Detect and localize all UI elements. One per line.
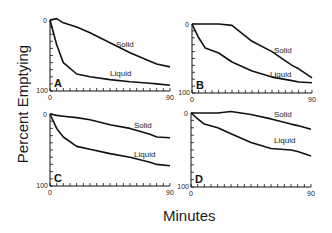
gastric-emptying-figure: 0100090SolidLiquidA0100090SolidLiquidB01… xyxy=(0,0,332,233)
solid-curve xyxy=(50,19,170,67)
y-tick-label-bottom: 100 xyxy=(36,87,48,94)
solid-label: Solid xyxy=(134,121,152,130)
panel-a: 0100090SolidLiquidA xyxy=(36,17,174,101)
solid-curve xyxy=(191,112,311,130)
solid-curve xyxy=(192,24,312,78)
panels-svg: 0100090SolidLiquidA0100090SolidLiquidB01… xyxy=(0,0,332,233)
solid-label: Solid xyxy=(274,46,292,55)
y-tick-label-top: 0 xyxy=(185,21,189,28)
y-tick-label-bottom: 100 xyxy=(177,183,189,190)
y-tick-label-bottom: 100 xyxy=(36,182,48,189)
x-tick-label-start: 0 xyxy=(48,189,52,196)
panel-d: 0100090SolidLiquidD xyxy=(177,110,315,197)
x-tick-label-end: 90 xyxy=(308,96,316,103)
panel-letter: B xyxy=(196,79,204,91)
liquid-label: Liquid xyxy=(270,70,291,79)
x-tick-label-end: 90 xyxy=(166,189,174,196)
y-tick-label-top: 0 xyxy=(184,110,188,117)
panel-letter: C xyxy=(54,172,62,184)
solid-label: Solid xyxy=(116,40,134,49)
panel-c: 0100090SolidLiquidC xyxy=(36,111,174,196)
panel-letter: D xyxy=(195,173,203,185)
panel-b: 0100090SolidLiquidB xyxy=(178,21,316,103)
liquid-label: Liquid xyxy=(274,136,295,145)
solid-label: Solid xyxy=(274,110,292,119)
liquid-curve xyxy=(191,113,311,156)
x-tick-label-start: 0 xyxy=(190,96,194,103)
solid-curve xyxy=(50,114,170,138)
x-axis-title: Minutes xyxy=(163,207,216,224)
y-tick-label-bottom: 100 xyxy=(178,89,190,96)
x-tick-label-end: 90 xyxy=(166,94,174,101)
y-axis-title: Percent Emptying xyxy=(14,45,31,163)
panel-letter: A xyxy=(54,77,62,89)
liquid-curve xyxy=(192,24,312,83)
x-tick-label-end: 90 xyxy=(307,190,315,197)
y-tick-label-top: 0 xyxy=(43,111,47,118)
x-tick-label-start: 0 xyxy=(189,190,193,197)
y-tick-label-top: 0 xyxy=(43,17,47,24)
x-tick-label-start: 0 xyxy=(48,94,52,101)
liquid-label: Liquid xyxy=(110,69,131,78)
liquid-label: Liquid xyxy=(134,150,155,159)
